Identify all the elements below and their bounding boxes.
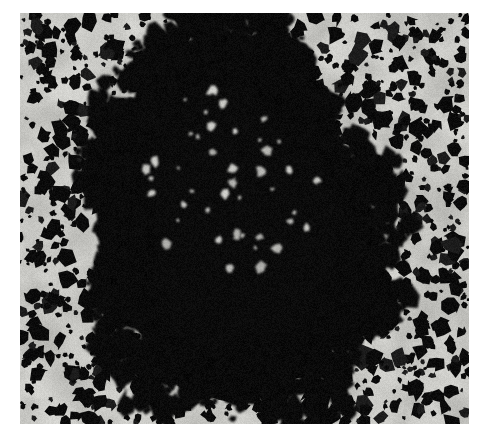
micrograph-plate bbox=[20, 13, 469, 424]
figure-page bbox=[0, 0, 479, 438]
grain-field-canvas bbox=[20, 13, 469, 424]
